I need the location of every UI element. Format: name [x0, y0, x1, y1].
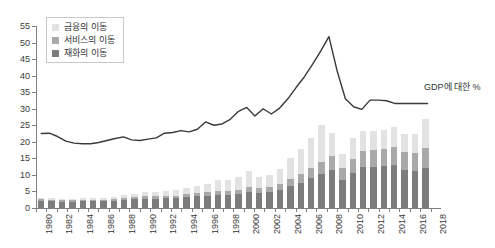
x-tick-label-2002: 2002	[273, 214, 282, 234]
x-tick-label-1988: 1988	[128, 214, 137, 234]
x-tick-1980	[36, 208, 37, 212]
x-tick-label-2008: 2008	[335, 214, 344, 234]
y-tick-label-30: 30	[20, 104, 30, 113]
legend-swatch-goods	[52, 50, 59, 57]
x-tick-2002	[264, 208, 265, 212]
x-tick-label-1986: 1986	[107, 214, 116, 234]
chart-container: 0510152025303540455055 19801982198419861…	[0, 0, 495, 248]
x-tick-label-2012: 2012	[377, 214, 386, 234]
x-tick-2013	[379, 208, 380, 212]
legend-item-1[interactable]: 서비스의 이동	[52, 35, 115, 45]
x-tick-2000	[244, 208, 245, 212]
x-tick-1992	[161, 208, 162, 212]
x-tick-2007	[316, 208, 317, 212]
legend-item-0[interactable]: 금융의 이동	[52, 22, 115, 32]
x-tick-1999	[233, 208, 234, 212]
y-tick-label-10: 10	[20, 170, 30, 179]
annotation-gdp-percent: GDP에 대한 %	[424, 82, 481, 92]
x-tick-1998	[223, 208, 224, 212]
y-tick-label-50: 50	[20, 38, 30, 47]
x-tick-2015	[399, 208, 400, 212]
x-tick-label-2016: 2016	[419, 214, 428, 234]
y-tick-label-5: 5	[25, 187, 30, 196]
legend-item-2[interactable]: 재화의 이동	[52, 48, 115, 58]
y-tick-label-20: 20	[20, 137, 30, 146]
x-tick-label-1990: 1990	[149, 214, 158, 234]
x-tick-1995	[192, 208, 193, 212]
x-tick-label-1992: 1992	[169, 214, 178, 234]
y-tick-label-55: 55	[20, 22, 30, 31]
x-tick-2001	[254, 208, 255, 212]
x-axis-line	[36, 208, 441, 209]
x-tick-1990	[140, 208, 141, 212]
x-tick-label-2000: 2000	[252, 214, 261, 234]
x-tick-2011	[358, 208, 359, 212]
x-tick-label-2018: 2018	[439, 214, 448, 234]
x-tick-label-1996: 1996	[211, 214, 220, 234]
x-tick-2003	[275, 208, 276, 212]
x-tick-1994	[181, 208, 182, 212]
x-tick-label-1984: 1984	[86, 214, 95, 234]
x-tick-1987	[109, 208, 110, 212]
x-tick-1991	[150, 208, 151, 212]
x-tick-1996	[202, 208, 203, 212]
legend-label-1: 서비스의 이동	[64, 35, 115, 45]
x-tick-1984	[78, 208, 79, 212]
x-tick-2017	[420, 208, 421, 212]
x-tick-2018	[431, 208, 432, 212]
x-tick-1988	[119, 208, 120, 212]
y-tick-label-45: 45	[20, 55, 30, 64]
x-tick-2004	[285, 208, 286, 212]
x-tick-2014	[389, 208, 390, 212]
x-tick-label-2004: 2004	[294, 214, 303, 234]
x-tick-1981	[46, 208, 47, 212]
y-tick-label-40: 40	[20, 71, 30, 80]
y-tick-label-0: 0	[25, 204, 30, 213]
x-tick-2009	[337, 208, 338, 212]
x-tick-label-1982: 1982	[65, 214, 74, 234]
x-tick-2010	[348, 208, 349, 212]
x-tick-1982	[57, 208, 58, 212]
legend-label-2: 재화의 이동	[64, 48, 107, 58]
x-tick-2016	[410, 208, 411, 212]
legend-label-0: 금융의 이동	[64, 22, 107, 32]
x-tick-2008	[327, 208, 328, 212]
x-tick-1989	[129, 208, 130, 212]
x-tick-label-1998: 1998	[232, 214, 241, 234]
x-tick-label-2014: 2014	[398, 214, 407, 234]
x-tick-1986	[98, 208, 99, 212]
y-tick-label-15: 15	[20, 154, 30, 163]
x-tick-label-1980: 1980	[45, 214, 54, 234]
x-tick-2006	[306, 208, 307, 212]
x-tick-1993	[171, 208, 172, 212]
x-tick-2005	[296, 208, 297, 212]
x-tick-1983	[67, 208, 68, 212]
legend-swatch-finance	[52, 24, 59, 31]
legend-swatch-services	[52, 37, 59, 44]
x-tick-label-1994: 1994	[190, 214, 199, 234]
y-tick-label-25: 25	[20, 121, 30, 130]
x-tick-1985	[88, 208, 89, 212]
x-tick-label-2006: 2006	[315, 214, 324, 234]
y-tick-label-35: 35	[20, 88, 30, 97]
x-tick-1997	[213, 208, 214, 212]
x-tick-label-2010: 2010	[356, 214, 365, 234]
legend: 금융의 이동서비스의 이동재화의 이동	[46, 17, 124, 63]
x-tick-2012	[368, 208, 369, 212]
